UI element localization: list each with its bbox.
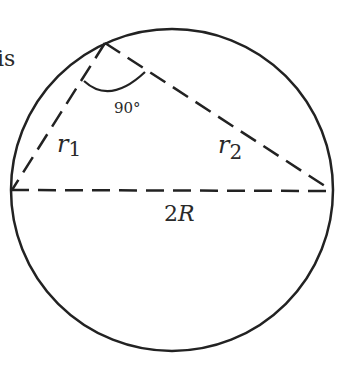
chord-r1 [12, 43, 105, 190]
diameter-label: 2R [164, 201, 195, 226]
chord1-label: r1 [57, 130, 81, 161]
diameter-line [11, 190, 332, 191]
partial-text: is [0, 46, 15, 71]
angle-label: 90° [114, 99, 141, 117]
chord2-label: r2 [218, 131, 242, 164]
circle-diagram: is 90° r1 r2 2R [0, 0, 348, 377]
right-angle-arc [84, 72, 145, 91]
